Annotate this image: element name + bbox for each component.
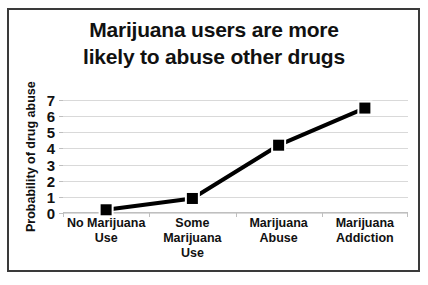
chart-title: Marijuana users are more likely to abuse… <box>30 16 398 70</box>
chart-figure: Marijuana users are more likely to abuse… <box>0 0 428 285</box>
x-category-label-line: Marijuana <box>151 231 233 246</box>
data-series <box>63 100 408 213</box>
x-category-label: MarijuanaAbuse <box>236 216 322 268</box>
data-point-marker <box>101 204 112 215</box>
y-tick-label: 6 <box>47 108 55 125</box>
y-tick-label: 2 <box>47 172 55 189</box>
data-point-marker <box>359 103 370 114</box>
x-category-label-line: Use <box>151 246 233 261</box>
x-category-label-line: Use <box>65 231 147 246</box>
y-tick-label: 0 <box>47 205 55 222</box>
x-category-label-line: No Marijuana <box>65 216 147 231</box>
x-axis-category-labels: No MarijuanaUseSomeMarijuanaUseMarijuana… <box>63 216 408 268</box>
plot-area: 01234567 <box>63 100 408 213</box>
chart-title-line-1: Marijuana users are more <box>30 16 398 43</box>
series-line <box>106 108 365 210</box>
y-tick-label: 3 <box>47 156 55 173</box>
y-tick-label: 5 <box>47 124 55 141</box>
x-category-label-line: Abuse <box>238 231 320 246</box>
x-category-label-line: Some <box>151 216 233 231</box>
x-category-label: No MarijuanaUse <box>63 216 149 268</box>
y-axis-title: Probability of drug abuse <box>24 82 38 232</box>
x-category-label-line: Addiction <box>324 231 406 246</box>
x-category-label-line: Marijuana <box>238 216 320 231</box>
x-category-label: MarijuanaAddiction <box>322 216 408 268</box>
y-tick-label: 1 <box>47 188 55 205</box>
y-tick-label: 7 <box>47 92 55 109</box>
data-point-marker <box>187 193 198 204</box>
chart-title-line-2: likely to abuse other drugs <box>30 43 398 70</box>
x-category-label: SomeMarijuanaUse <box>149 216 235 268</box>
x-category-label-line: Marijuana <box>324 216 406 231</box>
series-markers <box>99 101 373 218</box>
y-tick-label: 4 <box>47 140 55 157</box>
data-point-marker <box>273 140 284 151</box>
